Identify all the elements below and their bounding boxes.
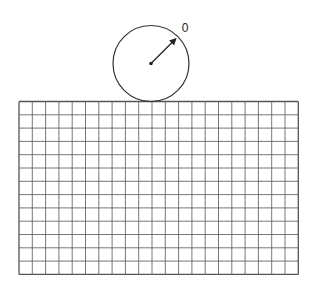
diagram-canvas: 0 xyxy=(0,0,321,294)
radius-arrow-icon xyxy=(151,39,176,64)
square-grid xyxy=(19,102,298,275)
rolling-circle: 0 xyxy=(113,21,189,102)
pointer-label: 0 xyxy=(182,21,189,35)
